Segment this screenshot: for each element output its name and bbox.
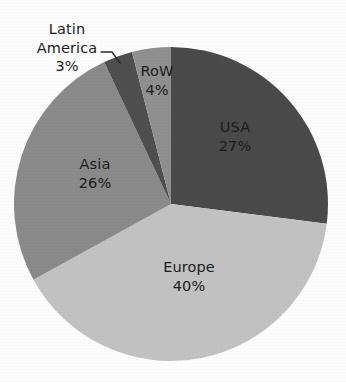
pie-chart: USA 27% Europe 40% Asia 26% RoW 4% Latin… xyxy=(0,0,346,382)
slice-label-usa-value: 27% xyxy=(196,137,274,156)
slice-label-europe: Europe 40% xyxy=(139,258,239,295)
slice-label-europe-value: 40% xyxy=(139,277,239,296)
slice-label-latin-america: Latin America 3% xyxy=(14,20,120,76)
slice-label-latin-america-value: 3% xyxy=(14,57,120,76)
slice-label-europe-name: Europe xyxy=(139,258,239,277)
slice-label-row: RoW 4% xyxy=(129,62,185,99)
slice-label-row-name: RoW xyxy=(129,62,185,81)
slice-label-usa: USA 27% xyxy=(196,118,274,155)
slice-label-asia: Asia 26% xyxy=(57,155,133,192)
slice-label-latin-america-name-line1: Latin xyxy=(14,20,120,39)
slice-label-asia-value: 26% xyxy=(57,174,133,193)
slice-label-latin-america-name-line2: America xyxy=(14,39,120,58)
slice-label-row-value: 4% xyxy=(129,81,185,100)
slice-label-usa-name: USA xyxy=(196,118,274,137)
slice-label-asia-name: Asia xyxy=(57,155,133,174)
